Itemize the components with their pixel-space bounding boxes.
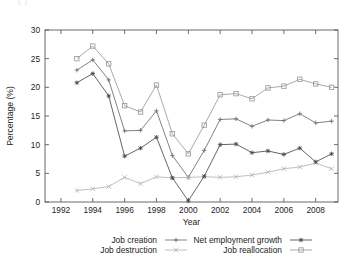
y-axis-tick-label: 15 — [31, 111, 41, 121]
y-axis-tick-label: 20 — [31, 82, 41, 92]
y-axis-tick-label: 10 — [31, 140, 41, 150]
legend-key-plus-icon — [165, 238, 187, 242]
x-axis-tick-label: 1994 — [84, 205, 103, 215]
x-axis-tick-label: 2000 — [179, 205, 198, 215]
x-axis-title: Year — [183, 217, 201, 227]
x-axis-tick-label: 1998 — [147, 205, 166, 215]
legend-label-job-creation: Job creation — [111, 235, 157, 245]
x-axis-tick-label: 2006 — [275, 205, 294, 215]
y-axis-tick-label: 30 — [31, 25, 41, 35]
series-job-reallocation — [75, 44, 334, 156]
x-axis-tick-label: 2004 — [243, 205, 262, 215]
series-line — [77, 74, 332, 201]
legend-key-square-icon — [290, 248, 312, 252]
legend-label-job-reallocation: Job reallocation — [223, 245, 282, 255]
x-axis-tick-label: 2008 — [306, 205, 325, 215]
x-axis-tick-label: 2002 — [211, 205, 230, 215]
chart-figure: ( ) 051015202530199219941996199820002002… — [0, 0, 349, 266]
y-axis-tick-label: 25 — [31, 54, 41, 64]
line-chart-canvas: 0510152025301992199419961998200020022004… — [0, 0, 349, 266]
legend-key-cross-icon — [165, 248, 187, 252]
y-axis-tick-label: 5 — [35, 168, 40, 178]
legend-label-net-employment-growth: Net employment growth — [194, 235, 283, 245]
x-axis-tick-label: 1996 — [115, 205, 134, 215]
legend-key-star-icon — [290, 238, 312, 242]
y-axis-title: Percentage (%) — [5, 86, 15, 146]
legend-label-job-destruction: Job destruction — [100, 245, 157, 255]
x-axis-tick-label: 1992 — [52, 205, 71, 215]
y-axis-tick-label: 0 — [35, 197, 40, 207]
